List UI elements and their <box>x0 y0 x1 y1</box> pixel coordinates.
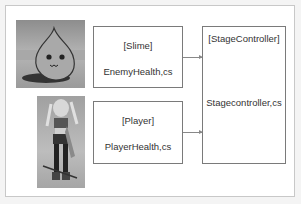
controller-script: Stagecontroller,cs <box>203 97 285 108</box>
slime-title: [Slime] <box>94 40 182 51</box>
controller-title: [StageController] <box>203 33 285 44</box>
slime-image <box>16 20 85 88</box>
slime-script: EnemyHealth,cs <box>94 66 182 77</box>
player-title: [Player] <box>94 115 182 126</box>
player-to-controller-arrow <box>183 132 202 133</box>
slime-to-controller-arrow <box>183 57 202 58</box>
player-image <box>37 96 85 188</box>
player-script: PlayerHealth,cs <box>94 141 182 152</box>
slime-box: [Slime] EnemyHealth,cs <box>93 26 183 88</box>
player-box: [Player] PlayerHealth,cs <box>93 101 183 164</box>
stage-controller-box: [StageController] Stagecontroller,cs <box>202 26 286 164</box>
